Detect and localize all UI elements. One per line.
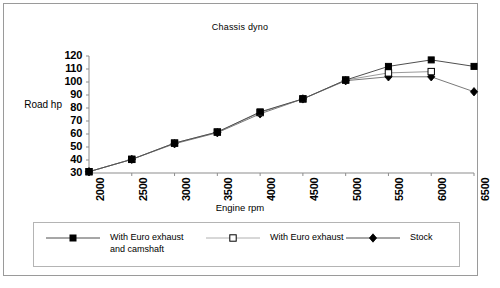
data-point-marker xyxy=(172,140,178,146)
legend-marker-filled-square xyxy=(44,231,102,245)
x-axis-title: Engine rpm xyxy=(0,202,480,213)
legend-marker-filled-diamond xyxy=(344,231,402,245)
data-point-marker xyxy=(428,68,434,74)
data-point-marker xyxy=(214,129,220,135)
data-series-group xyxy=(85,57,477,176)
series-line xyxy=(89,77,474,172)
data-point-marker xyxy=(471,63,477,69)
legend-label: With Euro exhaust xyxy=(270,232,344,244)
axis-lines xyxy=(86,56,474,176)
data-point-marker xyxy=(343,77,349,83)
data-point-marker xyxy=(470,88,477,96)
legend-label: Stock xyxy=(410,232,433,244)
chart-root: Chassis dyno Road hp 1201101009080706050… xyxy=(0,0,500,288)
data-point-marker xyxy=(257,109,263,115)
legend-marker-open-square xyxy=(204,231,262,245)
legend-marker xyxy=(70,235,76,241)
data-point-marker xyxy=(428,57,434,63)
legend-label: With Euro exhaust and camshaft xyxy=(110,232,184,255)
data-point-marker xyxy=(129,156,135,162)
data-point-marker xyxy=(300,96,306,102)
data-point-marker xyxy=(385,63,391,69)
legend-marker xyxy=(230,235,236,241)
data-point-marker xyxy=(86,169,92,175)
data-point-marker xyxy=(385,70,391,76)
legend-marker xyxy=(369,234,376,242)
legend: With Euro exhaust and camshaftWith Euro … xyxy=(33,222,460,267)
